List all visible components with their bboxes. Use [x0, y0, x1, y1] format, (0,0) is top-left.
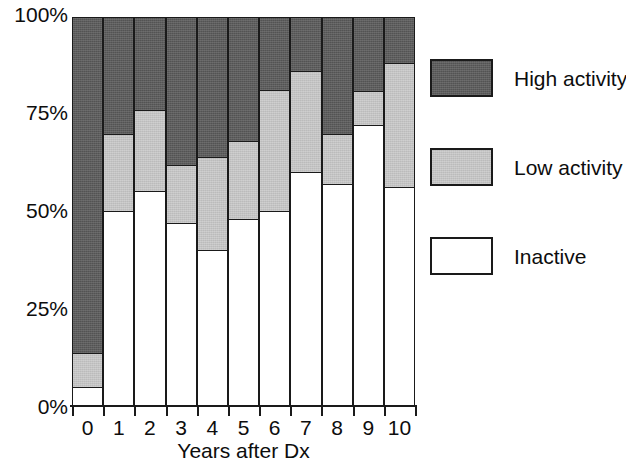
bar-segment-high[interactable] — [290, 17, 321, 72]
bar-segment-high[interactable] — [166, 17, 197, 166]
x-axis-ticks — [72, 407, 415, 416]
x-axis-tick-label: 8 — [331, 416, 343, 439]
x-axis-title: Years after Dx — [72, 440, 415, 461]
bar-segment-high[interactable] — [322, 17, 353, 135]
legend-swatch-high — [430, 59, 493, 97]
bar-segment-low[interactable] — [259, 90, 290, 212]
bar-segment-inactive[interactable] — [103, 211, 134, 407]
bar-segment-low[interactable] — [103, 134, 134, 212]
bar-segment-high[interactable] — [134, 17, 165, 111]
bar-segment-high[interactable] — [259, 17, 290, 91]
bar-segment-low[interactable] — [353, 91, 384, 126]
bar-segment-low[interactable] — [72, 353, 103, 388]
bar-segment-inactive[interactable] — [353, 125, 384, 407]
legend-swatch-low — [430, 148, 493, 186]
legend-label: Low activity — [514, 157, 623, 178]
legend-item-low[interactable]: Low activity — [430, 137, 626, 197]
bar-segment-low[interactable] — [384, 63, 415, 188]
bar-segment-inactive[interactable] — [134, 191, 165, 407]
bar-column[interactable] — [384, 14, 415, 406]
bar-segment-inactive[interactable] — [290, 172, 321, 407]
x-axis-tick — [134, 407, 136, 416]
x-axis-tick-label: 10 — [388, 416, 411, 439]
bar-segment-inactive[interactable] — [259, 211, 290, 407]
bar-segment-high[interactable] — [72, 17, 103, 354]
bar-segment-low[interactable] — [197, 157, 228, 251]
bar-segment-low[interactable] — [322, 134, 353, 185]
x-axis-tick — [197, 407, 199, 416]
x-axis-tick — [321, 407, 323, 416]
plot-area — [72, 14, 415, 406]
bar-segment-high[interactable] — [353, 17, 384, 91]
x-axis-tick — [353, 407, 355, 416]
y-axis-tick-label: 50% — [2, 200, 68, 221]
legend-item-inactive[interactable]: Inactive — [430, 226, 626, 286]
x-axis-tick-label: 9 — [362, 416, 374, 439]
bar-column[interactable] — [259, 14, 290, 406]
stacked-bar-chart-figure: 100%75%50%25%0% 012345678910 Years after… — [0, 0, 626, 462]
x-axis-tick — [166, 407, 168, 416]
y-axis-tick-label: 100% — [2, 4, 68, 25]
bar-segment-high[interactable] — [228, 17, 259, 142]
x-axis-tick-label: 5 — [238, 416, 250, 439]
bar-column[interactable] — [103, 14, 134, 406]
x-axis-tick — [103, 407, 105, 416]
x-axis-tick-label: 4 — [206, 416, 218, 439]
bar-segment-high[interactable] — [103, 17, 134, 135]
x-axis-tick-label: 6 — [269, 416, 281, 439]
bar-segment-high[interactable] — [384, 17, 415, 64]
y-axis: 100%75%50%25%0% — [0, 0, 68, 462]
bar-segment-inactive[interactable] — [197, 250, 228, 407]
x-axis-tick — [259, 407, 261, 416]
y-axis-tick-label: 0% — [2, 396, 68, 417]
bar-column[interactable] — [353, 14, 384, 406]
x-axis-tick — [228, 407, 230, 416]
bar-segment-inactive[interactable] — [228, 219, 259, 407]
x-axis-tick — [72, 407, 74, 416]
bar-column[interactable] — [322, 14, 353, 406]
x-axis-tick — [415, 407, 417, 416]
x-axis-tick — [384, 407, 386, 416]
legend-label: High activity — [514, 68, 626, 89]
bar-segment-inactive[interactable] — [384, 187, 415, 407]
bar-segment-low[interactable] — [166, 165, 197, 224]
x-axis-tick-label: 3 — [175, 416, 187, 439]
bar-column[interactable] — [134, 14, 165, 406]
x-axis-tick — [290, 407, 292, 416]
bar-segment-inactive[interactable] — [166, 223, 197, 407]
x-axis-tick-label: 7 — [300, 416, 312, 439]
bar-segment-high[interactable] — [197, 17, 228, 158]
bar-segment-low[interactable] — [228, 141, 259, 219]
legend-item-high[interactable]: High activity — [430, 48, 626, 108]
x-axis-tick-label: 1 — [113, 416, 125, 439]
bar-column[interactable] — [228, 14, 259, 406]
bar-segment-low[interactable] — [134, 110, 165, 192]
x-axis-tick-label: 2 — [144, 416, 156, 439]
chart-legend: High activityLow activityInactive — [430, 48, 626, 315]
bar-segment-inactive[interactable] — [322, 184, 353, 407]
legend-swatch-inactive — [430, 237, 493, 275]
bar-column[interactable] — [166, 14, 197, 406]
x-axis-tick-label: 0 — [82, 416, 94, 439]
y-axis-tick-label: 25% — [2, 298, 68, 319]
bar-column[interactable] — [72, 14, 103, 406]
bar-segment-low[interactable] — [290, 71, 321, 173]
y-axis-tick-label: 75% — [2, 102, 68, 123]
bar-column[interactable] — [290, 14, 321, 406]
legend-label: Inactive — [514, 246, 586, 267]
bar-column[interactable] — [197, 14, 228, 406]
